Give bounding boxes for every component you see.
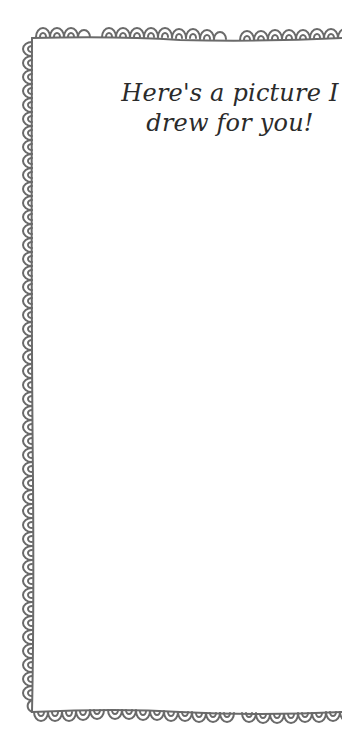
bottom-scallops: [34, 710, 342, 723]
left-scallops: [23, 42, 32, 712]
card-title-line-2: drew for you!: [100, 108, 342, 138]
card-title: Here's a picture I drew for you!: [100, 78, 342, 138]
card-title-line-1: Here's a picture I: [100, 78, 342, 108]
blank-drawing-area: [34, 160, 342, 708]
